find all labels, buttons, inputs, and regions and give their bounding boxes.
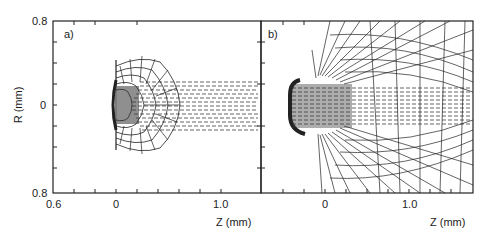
y-tick-top: 0.8 (32, 15, 47, 27)
y-tick-zero: 0 (40, 99, 46, 111)
x-tick-a-2: 1.0 (213, 198, 228, 210)
panel-a-label: a) (64, 28, 74, 40)
y-axis-label: R (mm) (12, 87, 24, 124)
x-tick-b-1: 1.0 (402, 198, 417, 210)
panel-b-label: b) (268, 28, 278, 40)
panel-a-mesh (113, 56, 258, 154)
y-tick-bottom: 0.8 (32, 187, 47, 199)
panel-a-frame (53, 21, 261, 193)
x-tick-a-0: 0.6 (46, 198, 61, 210)
x-axis-a-label: Z (mm) (216, 216, 251, 228)
figure-canvas: a) b) 0.8 0 0.8 R (mm) 0.6 0 1.0 Z (mm) … (0, 0, 485, 244)
panel-b-mesh (290, 21, 473, 193)
x-tick-b-0: 0 (322, 198, 328, 210)
x-axis-b-label: Z (mm) (430, 216, 465, 228)
x-tick-a-1: 0 (113, 198, 119, 210)
